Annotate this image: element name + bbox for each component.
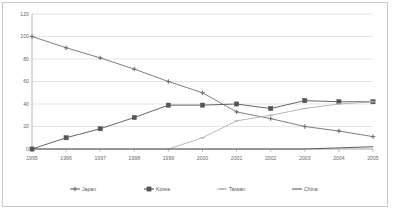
x-tick-label: 2003 (299, 155, 311, 161)
y-tick-label: 120 (20, 11, 29, 17)
legend-label: Japan (82, 186, 96, 192)
data-point-marker (64, 136, 68, 140)
series-line (32, 147, 373, 149)
x-tick-label: 1998 (129, 155, 141, 161)
x-tick-label: 1995 (26, 155, 38, 161)
series-japan (30, 34, 375, 139)
data-point-marker (132, 115, 136, 119)
data-point-marker (98, 127, 102, 131)
legend-item-korea[interactable]: Korea (144, 186, 170, 192)
x-tick-label: 1997 (94, 155, 106, 161)
x-tick-label: 1999 (163, 155, 175, 161)
x-tick-label: 2001 (231, 155, 243, 161)
data-point-marker (235, 102, 239, 106)
data-point-marker (166, 103, 170, 107)
legend-label: Korea (156, 186, 170, 192)
line-chart: 0204060801001201995199619971998199920002… (3, 3, 389, 208)
legend-item-taiwan[interactable]: Taiwan (217, 186, 245, 192)
y-tick-label: 100 (20, 33, 29, 39)
series-line (32, 101, 373, 149)
legend-item-japan[interactable]: Japan (70, 186, 96, 192)
x-tick-label: 2004 (333, 155, 345, 161)
legend-item-china[interactable]: China (292, 186, 318, 192)
data-point-marker (303, 99, 307, 103)
gridlines: 020406080100120 (20, 11, 373, 152)
x-tick-label: 1996 (60, 155, 72, 161)
legend: JapanKoreaTaiwanChina (70, 186, 318, 192)
data-point-marker (269, 106, 273, 110)
chart-frame: 0204060801001201995199619971998199920002… (2, 2, 388, 207)
legend-label: China (304, 186, 318, 192)
x-axis-ticks: 1995199619971998199920002001200220032004… (26, 149, 379, 161)
series-line (32, 37, 373, 137)
y-tick-label: 60 (23, 78, 29, 84)
y-tick-label: 20 (23, 123, 29, 129)
x-tick-label: 2005 (367, 155, 379, 161)
data-point-marker (147, 187, 151, 191)
legend-label: Taiwan (229, 186, 245, 192)
series-china (32, 147, 373, 149)
x-tick-label: 2002 (265, 155, 277, 161)
x-tick-label: 2000 (197, 155, 209, 161)
data-point-marker (200, 103, 204, 107)
y-tick-label: 80 (23, 56, 29, 62)
data-point-marker (337, 100, 341, 104)
y-tick-label: 40 (23, 101, 29, 107)
y-tick-label: 0 (26, 146, 29, 152)
